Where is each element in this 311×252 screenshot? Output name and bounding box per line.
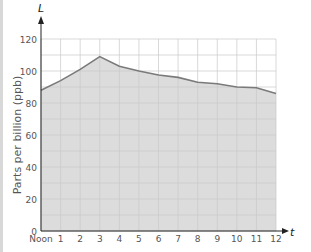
- x-tick-labels: Noon123456789101112: [29, 234, 281, 244]
- y-axis-label: Parts per billion (ppb): [11, 76, 24, 195]
- x-tick-label: 6: [156, 234, 162, 244]
- x-tick-label: 10: [231, 234, 243, 244]
- x-axis-arrow-icon: [282, 228, 289, 234]
- x-tick-label: 5: [136, 234, 142, 244]
- x-tick-label: 12: [270, 234, 281, 244]
- y-tick-label: 40: [26, 163, 38, 173]
- y-tick-label: 20: [26, 195, 38, 205]
- y-axis-letter: L: [38, 2, 44, 15]
- y-tick-label: 100: [20, 67, 37, 77]
- x-tick-label: 2: [77, 234, 83, 244]
- x-tick-label: 7: [175, 234, 181, 244]
- y-tick-label: 80: [26, 99, 38, 109]
- chart: 020406080100120 Noon123456789101112 Part…: [0, 0, 311, 252]
- x-tick-label: 11: [251, 234, 262, 244]
- y-axis-arrow-icon: [38, 16, 44, 24]
- x-tick-label: Noon: [29, 234, 52, 244]
- y-tick-label: 60: [26, 131, 38, 141]
- x-axis-letter: t: [290, 226, 295, 239]
- left-border: [0, 0, 3, 252]
- x-tick-label: 4: [116, 234, 122, 244]
- y-tick-label: 120: [20, 35, 37, 45]
- x-tick-label: 8: [195, 234, 201, 244]
- x-tick-label: 9: [214, 234, 220, 244]
- chart-svg: 020406080100120 Noon123456789101112 Part…: [0, 0, 311, 252]
- x-tick-label: 3: [97, 234, 103, 244]
- x-tick-label: 1: [58, 234, 64, 244]
